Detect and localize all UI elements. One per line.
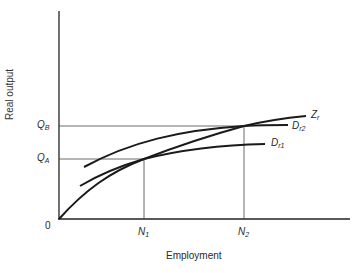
n1-tick-label: N1 — [138, 226, 149, 238]
qa-tick-label: QA — [37, 152, 49, 164]
chart-canvas — [0, 0, 356, 273]
dr2-curve — [84, 125, 288, 167]
n2-tick-label: N2 — [238, 226, 249, 238]
zr-curve — [59, 116, 306, 219]
dr1-curve — [80, 144, 265, 186]
x-axis-label: Employment — [166, 250, 222, 261]
dr1-label: Dr1 — [271, 137, 284, 149]
y-axis-label: Real output — [4, 69, 15, 120]
dr2-label: Dr2 — [292, 120, 305, 132]
qb-tick-label: QB — [37, 119, 49, 131]
origin-label: 0 — [45, 220, 51, 231]
zr-label: Zr — [311, 109, 319, 121]
